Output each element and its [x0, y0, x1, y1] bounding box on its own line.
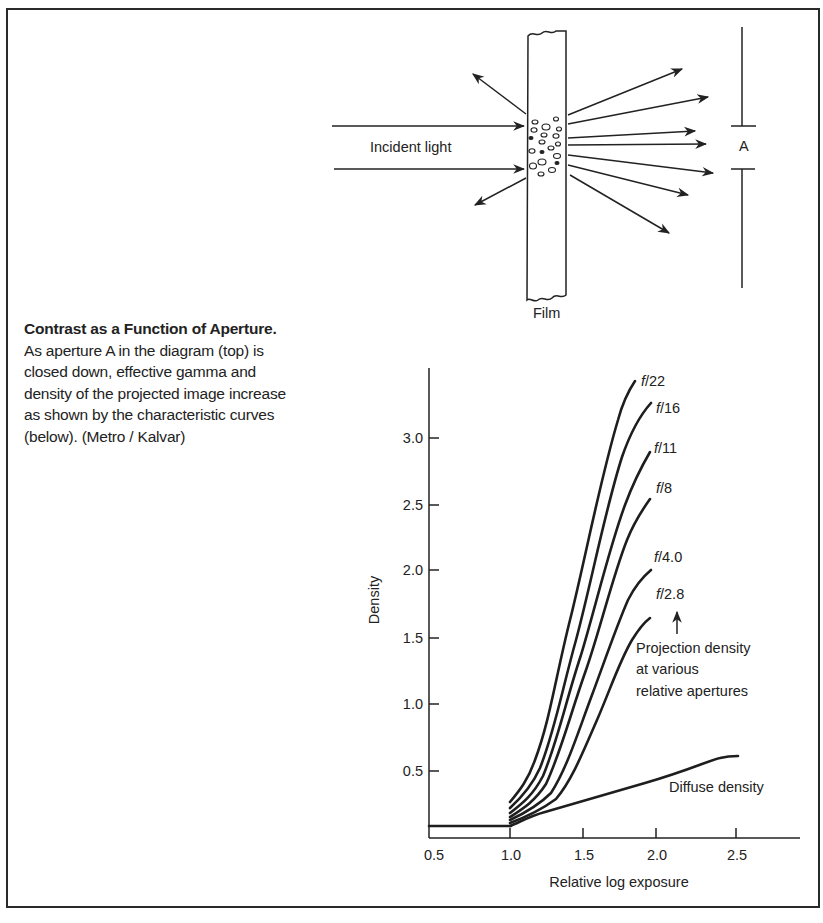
curve-f22 — [510, 381, 635, 802]
x-axis-label: Relative log exposure — [549, 874, 688, 890]
svg-text:at various: at various — [636, 661, 699, 677]
y-axis-label: Density — [366, 575, 382, 624]
diffuse-density-label: Diffuse density — [669, 779, 765, 795]
silver-grains — [529, 117, 562, 176]
svg-text:1.0: 1.0 — [403, 696, 423, 712]
curve-set — [429, 381, 738, 826]
svg-text:1.5: 1.5 — [403, 630, 423, 646]
backscatter-ray-bottom — [475, 178, 526, 205]
svg-text:2.0: 2.0 — [403, 562, 423, 578]
film-label: Film — [533, 305, 560, 321]
backscatter-ray-top — [473, 74, 526, 114]
y-tick-labels: 0.5 1.0 1.5 2.0 2.5 3.0 — [403, 430, 423, 779]
svg-text:0.5: 0.5 — [424, 847, 444, 863]
aperture-label: A — [739, 138, 749, 154]
svg-text:3.0: 3.0 — [403, 430, 423, 446]
film-scatter-diagram — [332, 27, 756, 301]
svg-text:relative apertures: relative apertures — [636, 683, 748, 699]
film-strip — [527, 31, 566, 301]
label-f28: f/2.8 — [656, 586, 684, 602]
svg-text:2.5: 2.5 — [403, 497, 423, 513]
incident-light-label: Incident light — [370, 139, 451, 155]
caption-credit: (Metro / Kalvar) — [82, 428, 186, 445]
x-tick-labels: 0.5 1.0 1.5 2.0 2.5 — [424, 847, 747, 863]
forward-scatter-rays — [568, 69, 713, 233]
axes — [429, 368, 800, 838]
figure-caption: Contrast as a Function of Aperture. As a… — [24, 318, 294, 447]
svg-text:Projection density: Projection density — [636, 640, 751, 656]
label-f8: f/8 — [656, 480, 672, 496]
svg-text:1.5: 1.5 — [574, 847, 594, 863]
svg-text:2.5: 2.5 — [727, 847, 747, 863]
label-f11: f/11 — [654, 440, 677, 456]
svg-text:0.5: 0.5 — [403, 763, 423, 779]
curve-f16 — [510, 403, 651, 808]
caption-title: Contrast as a Function of Aperture. — [24, 320, 277, 337]
label-f4: f/4.0 — [654, 549, 682, 565]
characteristic-curves-chart: 0.5 1.0 1.5 2.0 2.5 3.0 0.5 1.0 1.5 2.0 … — [366, 368, 800, 890]
projection-annotation: Projection density at various relative a… — [636, 612, 751, 699]
aperture-marker — [731, 27, 756, 288]
label-f22: f/22 — [641, 373, 665, 389]
svg-text:1.0: 1.0 — [501, 847, 521, 863]
label-f16: f/16 — [656, 400, 680, 416]
svg-text:2.0: 2.0 — [647, 847, 667, 863]
figure-canvas: Incident light A Film 0.5 1.0 1.5 2.0 2.… — [0, 0, 823, 923]
